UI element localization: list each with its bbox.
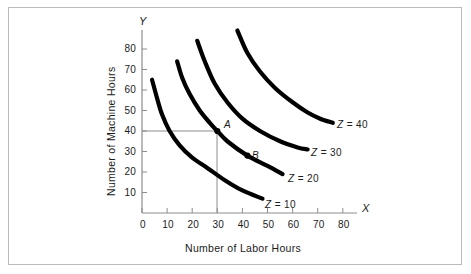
curve-label-z10-value: = 10 <box>275 199 296 210</box>
y-tick-label: 20 <box>118 166 136 177</box>
y-axis-letter: Y <box>139 16 146 27</box>
x-tick-label: 10 <box>161 219 175 230</box>
y-tick-label: 70 <box>118 64 136 75</box>
y-axis-ticks <box>142 49 147 193</box>
x-tick-label: 30 <box>211 219 225 230</box>
y-tick-label: 30 <box>118 146 136 157</box>
curve-label-z20-symbol: Z <box>288 173 295 184</box>
isoquant-plot <box>0 0 471 274</box>
x-tick-label: 20 <box>186 219 200 230</box>
point-label-a: A <box>224 119 231 130</box>
y-axis-title: Number of Machine Hours <box>106 67 117 196</box>
y-tick-label: 80 <box>118 43 136 54</box>
y-tick-label: 40 <box>118 125 136 136</box>
curve-label-z30-value: = 30 <box>321 147 342 158</box>
x-tick-label: 70 <box>312 219 326 230</box>
curve-label-z10-symbol: Z <box>265 199 272 210</box>
x-tick-label: 0 <box>136 219 150 230</box>
x-axis-letter: X <box>362 203 369 214</box>
y-tick-label: 50 <box>118 105 136 116</box>
x-tick-label: 40 <box>236 219 250 230</box>
x-axis-ticks <box>142 208 343 213</box>
curve-label-z20: Z = 20 <box>288 173 319 184</box>
isoquant-figure: 1020304050607080 01020304050607080 Y X N… <box>0 0 471 274</box>
data-point-b <box>244 153 250 159</box>
curve-label-z20-value: = 20 <box>298 173 319 184</box>
point-label-b: B <box>252 150 259 161</box>
isoquant-curve <box>197 41 307 150</box>
y-tick-label: 10 <box>118 187 136 198</box>
curve-label-z30: Z = 30 <box>311 147 342 158</box>
y-tick-label: 60 <box>118 84 136 95</box>
curve-label-z10: Z = 10 <box>265 199 296 210</box>
curve-label-z30-symbol: Z <box>311 147 318 158</box>
data-point-a <box>214 128 220 134</box>
x-axis-title: Number of Labor Hours <box>185 243 301 254</box>
x-tick-label: 60 <box>287 219 301 230</box>
curve-label-z40-symbol: Z <box>337 119 344 130</box>
x-tick-label: 80 <box>337 219 351 230</box>
curve-label-z40-value: = 40 <box>347 119 368 130</box>
x-tick-label: 50 <box>262 219 276 230</box>
curve-label-z40: Z = 40 <box>337 119 368 130</box>
isoquant-curve <box>237 31 332 123</box>
isoquant-curve <box>152 80 262 199</box>
